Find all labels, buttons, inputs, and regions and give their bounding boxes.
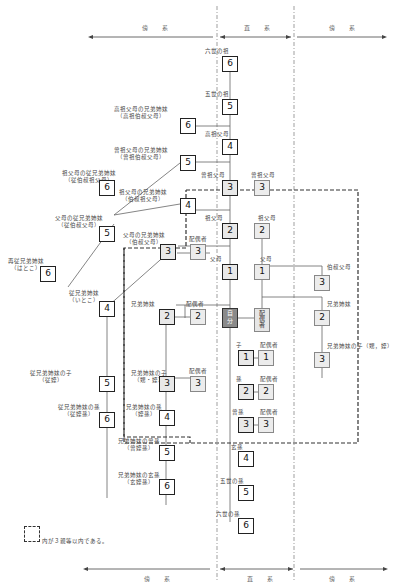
label-spouse-sibling: 兄弟姉妹 bbox=[327, 301, 351, 308]
label-spouse-sibling-child: 兄弟姉妹の子（甥，姪） bbox=[327, 343, 393, 350]
label-parent-cousin: 父母の従兄弟姉妹 （従伯叔父母） bbox=[55, 215, 103, 229]
label-6th-descendant: 六世の孫 bbox=[216, 511, 240, 518]
spouse-char-3: 者 bbox=[255, 322, 269, 328]
box-grandchild: 2 bbox=[238, 384, 254, 400]
label-line-1: 祖父母の従兄弟姉妹 bbox=[62, 170, 116, 177]
label-sibling-spouse: 配偶者 bbox=[186, 301, 204, 308]
box-cousin-grandchild: 6 bbox=[99, 412, 115, 428]
box-6th-descendant: 6 bbox=[238, 518, 254, 534]
box-spouse-uncle: 3 bbox=[314, 275, 330, 291]
label-second-cousin: 再従兄弟姉妹 （はとこ） bbox=[8, 258, 44, 272]
label-line-1: 兄弟姉妹の玄孫 bbox=[118, 472, 160, 479]
label-grandchild: 孫 bbox=[236, 376, 242, 383]
label-great-grandparents: 曾祖父母 bbox=[201, 172, 225, 179]
label-grand-uncle: 祖父母の兄弟姉妹 （伯叔祖父母） bbox=[119, 189, 167, 203]
box-grandchild-spouse: 2 bbox=[258, 384, 274, 400]
label-great-grand-uncle: 曾祖父母の兄弟姉妹 （曾祖伯叔父母） bbox=[114, 147, 168, 161]
box-spouse-sibling-child: 3 bbox=[314, 352, 330, 368]
label-great-great-grand-uncle: 高祖父母の兄弟姉妹 （高祖伯叔父母） bbox=[114, 106, 168, 120]
label-line-2: （伯叔祖父母） bbox=[119, 196, 167, 203]
label-great-great-grandchild: 玄孫 bbox=[231, 444, 243, 451]
box-child: 1 bbox=[238, 350, 254, 366]
box-spouse: 配 偶 者 bbox=[254, 308, 270, 332]
box-great-grand-uncle: 5 bbox=[180, 155, 196, 171]
box-5th-descendant: 5 bbox=[238, 485, 254, 501]
label-great-great-grandparents: 高祖父母 bbox=[205, 131, 229, 138]
collateral-label-bottom-left: 傍 系 bbox=[144, 574, 174, 582]
label-cousin-grandchild: 従兄弟姉妹の孫 （従姪孫） bbox=[58, 404, 100, 418]
label-uncle: 父母の兄弟姉妹 （伯叔父母） bbox=[123, 232, 165, 246]
box-spouse-sibling: 2 bbox=[314, 310, 330, 326]
collateral-label-top-right: 傍 系 bbox=[329, 23, 359, 32]
label-line-2: （はとこ） bbox=[8, 265, 44, 272]
box-cousin: 4 bbox=[99, 301, 115, 317]
label-line-2: （伯叔父母） bbox=[123, 239, 165, 246]
label-line-1: 再従兄弟姉妹 bbox=[8, 258, 44, 265]
direct-label-top: 直 系 bbox=[244, 23, 274, 32]
box-great-grandchild: 3 bbox=[238, 417, 254, 433]
legend-dashed-box-icon bbox=[24, 526, 40, 542]
label-line-1: 高祖父母の兄弟姉妹 bbox=[114, 106, 168, 113]
label-sibling-great-great-grandchild: 兄弟姉妹の玄孫 （玄姪孫） bbox=[118, 472, 160, 486]
legend-text: 内が３親等以内である。 bbox=[42, 537, 108, 545]
label-5th-ancestor: 五世の祖 bbox=[205, 91, 229, 98]
box-parent-cousin: 5 bbox=[99, 226, 115, 242]
label-line-1: 従兄弟姉妹の孫 bbox=[58, 404, 100, 411]
label-line-1: 兄弟姉妹の孫 bbox=[126, 404, 162, 411]
label-line-1: 従兄弟姉妹の子 bbox=[30, 370, 72, 377]
self-char-1: 自 bbox=[223, 310, 237, 316]
label-line-2: （曾姪孫） bbox=[118, 445, 160, 452]
connector-lines bbox=[0, 0, 401, 582]
label-line-1: 祖父母の兄弟姉妹 bbox=[119, 189, 167, 196]
label-cousin-child: 従兄弟姉妹の子 （従姪） bbox=[30, 370, 72, 384]
label-spouse-great-grandparents: 曾祖父母 bbox=[251, 172, 275, 179]
box-uncle: 3 bbox=[160, 244, 176, 260]
label-line-2: （従姪） bbox=[30, 377, 72, 384]
label-sibling: 兄弟姉妹 bbox=[131, 301, 155, 308]
label-uncle-spouse: 配偶者 bbox=[189, 236, 207, 243]
label-sibling-great-grandchild: 兄弟姉妹の曾孫 （曾姪孫） bbox=[118, 438, 160, 452]
label-child-spouse: 配偶者 bbox=[260, 342, 278, 349]
box-great-great-grandparents: 4 bbox=[222, 139, 238, 155]
box-sibling: 2 bbox=[159, 309, 175, 325]
box-sibling-grandchild: 4 bbox=[159, 410, 175, 426]
direct-label-bottom: 直 系 bbox=[247, 574, 277, 582]
label-spouse-parents: 父母 bbox=[260, 256, 272, 263]
label-spouse-uncle: 伯叔父母 bbox=[327, 264, 351, 271]
box-grand-uncle: 4 bbox=[180, 198, 196, 214]
box-sibling-spouse: 2 bbox=[190, 309, 206, 325]
label-line-1: 父母の従兄弟姉妹 bbox=[55, 215, 103, 222]
label-sibling-child-spouse: 配偶者 bbox=[189, 368, 207, 375]
label-great-grandchild-spouse: 配偶者 bbox=[260, 409, 278, 416]
box-6th-ancestor: 6 bbox=[222, 56, 238, 72]
box-spouse-parents: 1 bbox=[254, 264, 270, 280]
box-spouse-great-grandparents: 3 bbox=[254, 180, 270, 196]
label-line-2: （姪孫） bbox=[126, 411, 162, 418]
collateral-label-top-left: 傍 系 bbox=[142, 23, 172, 32]
label-child: 子 bbox=[236, 342, 242, 349]
box-spouse-grandparents: 2 bbox=[254, 223, 270, 239]
box-sibling-child: 3 bbox=[159, 376, 175, 392]
label-line-2: （高祖伯叔父母） bbox=[114, 113, 168, 120]
label-grandchild-spouse: 配偶者 bbox=[260, 376, 278, 383]
box-second-cousin: 6 bbox=[40, 266, 56, 282]
collateral-label-bottom-right: 傍 系 bbox=[329, 574, 359, 582]
label-line-1: 兄弟姉妹の曾孫 bbox=[118, 438, 160, 445]
label-line-2: （従伯叔父母） bbox=[55, 222, 103, 229]
label-great-grandchild: 曾孫 bbox=[232, 409, 244, 416]
label-5th-descendant: 五世の孫 bbox=[220, 478, 244, 485]
label-line-1: 曾祖父母の兄弟姉妹 bbox=[114, 147, 168, 154]
label-line-1: 従兄弟姉妹 bbox=[69, 290, 99, 297]
box-grandparent-cousin: 6 bbox=[99, 180, 115, 196]
box-child-spouse: 1 bbox=[258, 350, 274, 366]
box-great-great-grand-uncle: 6 bbox=[180, 118, 196, 134]
label-line-2: （従姪孫） bbox=[58, 411, 100, 418]
self-char-2: 分 bbox=[223, 318, 237, 324]
label-grandparents: 祖父母 bbox=[205, 215, 223, 222]
box-great-grandparents: 3 bbox=[222, 180, 238, 196]
box-sibling-great-great-grandchild: 6 bbox=[159, 479, 175, 495]
box-great-great-grandchild: 4 bbox=[238, 451, 254, 467]
label-line-2: （玄姪孫） bbox=[118, 479, 160, 486]
box-sibling-child-spouse: 3 bbox=[190, 376, 206, 392]
label-line-1: 父母の兄弟姉妹 bbox=[123, 232, 165, 239]
